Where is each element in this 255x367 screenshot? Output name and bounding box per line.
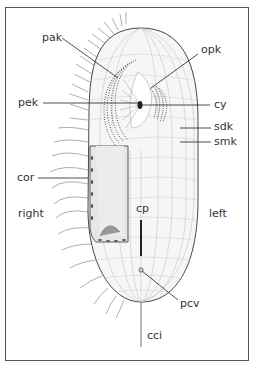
label-cor: cor [17, 172, 34, 183]
label-right: right [18, 208, 44, 219]
cytostome [138, 101, 143, 109]
label-cci: cci [147, 330, 162, 341]
label-pak: pak [42, 32, 62, 43]
label-opk: opk [201, 44, 221, 55]
label-cp: cp [136, 203, 149, 214]
label-pcv: pcv [180, 298, 200, 309]
label-cy: cy [214, 99, 227, 110]
label-left: left [209, 208, 227, 219]
label-smk: smk [214, 136, 237, 147]
label-sdk: sdk [214, 121, 233, 132]
label-pek: pek [18, 97, 38, 108]
cortex-cavity [90, 146, 128, 242]
